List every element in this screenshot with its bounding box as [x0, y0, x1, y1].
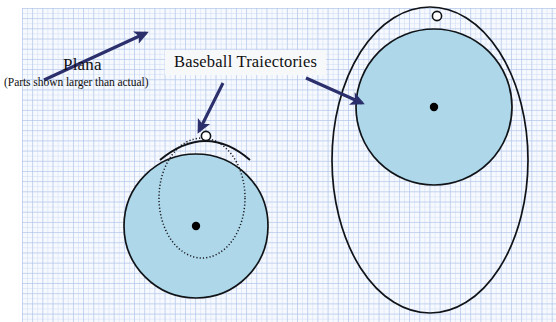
large-sphere-group [332, 7, 528, 313]
baseball-trajectories-label: Baseball Traiectories [165, 50, 326, 75]
small-ball-marker [201, 131, 210, 140]
small-center-marker-dot [192, 222, 200, 230]
large-ball-marker [432, 11, 441, 20]
diagram-vector-layer [0, 0, 556, 322]
plana-label: Plana [63, 55, 102, 75]
trajectory-arrow-right [306, 78, 362, 103]
small-sphere-group [124, 131, 268, 298]
plana-subtitle: (Parts shown larger than actual) [4, 76, 148, 88]
large-center-marker-dot [430, 103, 438, 111]
figure-canvas: Plana (Parts shown larger than actual) B… [0, 0, 556, 322]
trajectory-arrow-left [199, 83, 223, 131]
